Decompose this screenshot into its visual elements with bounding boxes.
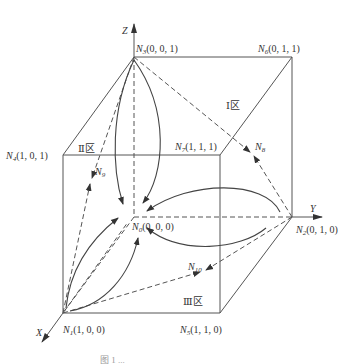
x-axis: [42, 313, 63, 342]
z-axis-label: Z: [122, 25, 128, 36]
node-n3: N3(0, 0, 1): [135, 43, 178, 56]
node-n7: N7(1, 1, 1): [174, 141, 217, 154]
node-n2: N2(0, 1, 0): [295, 224, 338, 237]
cube-edges: [63, 57, 292, 313]
node-n1: N1(1, 0, 0): [62, 324, 105, 337]
node-n8: N8: [254, 141, 266, 154]
zone-3-label: Ⅲ区: [183, 296, 203, 307]
hidden-edges: [63, 57, 292, 313]
zone-1-label: Ⅰ区: [226, 100, 240, 111]
node-n10: N10: [187, 261, 202, 274]
cube-diagram: Z Y X N3(0, 0, 1) N6(0, 1, 1) N4(1, 0, 1…: [0, 0, 352, 364]
curved-flows: [66, 60, 280, 311]
axes: Z Y X: [35, 24, 322, 342]
node-n9: N9: [94, 166, 106, 179]
node-n6: N6(0, 1, 1): [257, 43, 300, 56]
x-axis-label: X: [35, 327, 43, 338]
y-axis-label: Y: [310, 203, 317, 214]
node-n5: N5(1, 1, 0): [179, 324, 222, 337]
zone-2-label: Ⅱ区: [78, 143, 95, 154]
node-n4: N4(1, 0, 1): [5, 150, 48, 163]
figure-caption: 图 1 ...: [100, 355, 125, 364]
dashed-flows: [63, 57, 292, 313]
